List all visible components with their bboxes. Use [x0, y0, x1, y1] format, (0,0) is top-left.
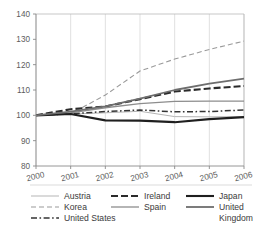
- x-tick-label: 2000: [25, 170, 45, 183]
- line-chart: 8090100110120130140 20002001200220032004…: [0, 0, 261, 233]
- legend-label[interactable]: United States: [64, 213, 116, 223]
- legend-label[interactable]: Ireland: [144, 191, 170, 201]
- legend-label[interactable]: Spain: [144, 202, 166, 212]
- legend-label[interactable]: Kingdom: [219, 213, 253, 223]
- y-tick-label: 120: [16, 61, 30, 70]
- x-tick-label: 2002: [95, 170, 115, 183]
- legend-label[interactable]: Austria: [64, 191, 91, 201]
- y-tick-label: 100: [16, 111, 30, 120]
- x-tick-label: 2004: [164, 170, 184, 183]
- legend-label[interactable]: Korea: [64, 202, 87, 212]
- y-tick-label: 110: [17, 86, 30, 95]
- y-axis: 8090100110120130140: [16, 10, 36, 171]
- x-tick-label: 2003: [129, 170, 149, 183]
- x-tick-label: 2001: [60, 170, 80, 183]
- y-tick-label: 90: [21, 137, 31, 146]
- legend-label[interactable]: United: [219, 202, 244, 212]
- x-axis: 2000200120022003200420052006: [25, 166, 253, 183]
- x-tick-label: 2005: [199, 170, 219, 183]
- chart-figure: 8090100110120130140 20002001200220032004…: [0, 0, 261, 233]
- x-tick-label: 2006: [233, 170, 253, 183]
- y-tick-label: 80: [21, 162, 31, 171]
- y-tick-label: 130: [16, 35, 30, 44]
- y-tick-label: 140: [16, 10, 30, 19]
- legend-label[interactable]: Japan: [219, 191, 243, 201]
- chart-legend: AustriaKoreaUnited StatesIrelandSpainJap…: [30, 185, 253, 223]
